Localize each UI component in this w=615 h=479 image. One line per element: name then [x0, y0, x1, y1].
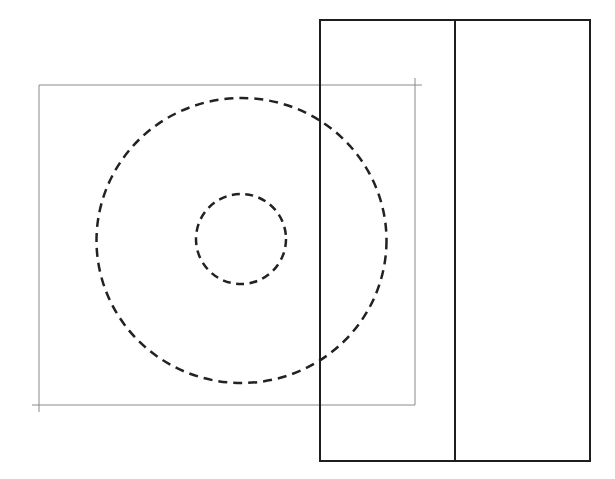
thick-frame — [320, 20, 590, 461]
outer-dashed-circle — [97, 98, 387, 383]
thin-frame — [32, 78, 422, 412]
inner-dashed-circle — [196, 194, 286, 284]
diagram-canvas — [0, 0, 615, 479]
